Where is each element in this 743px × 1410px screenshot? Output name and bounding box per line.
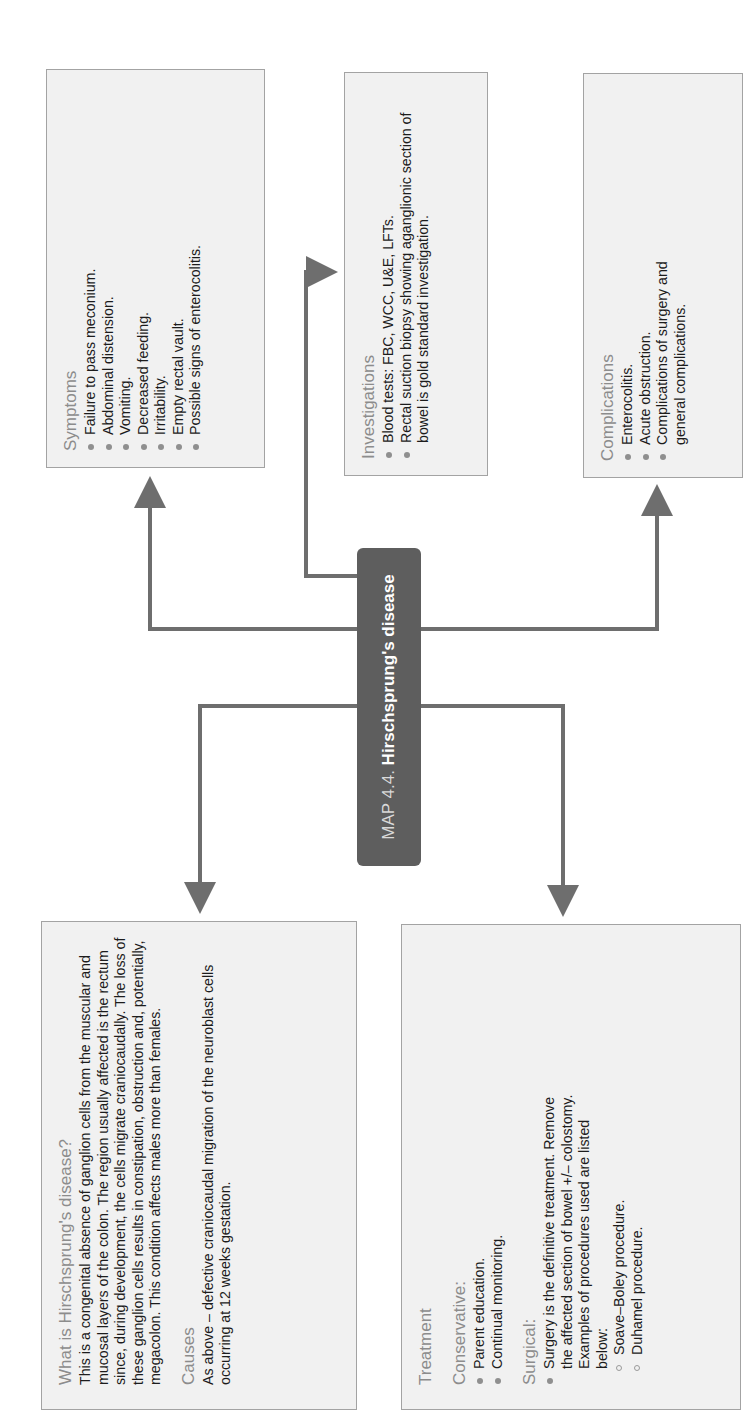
surgical-list: Surgery is the definitive treatment. Rem… (541, 1085, 646, 1385)
list-item: Soave–Boley procedure. (611, 1085, 629, 1385)
list-item: Empty rectal vault. (170, 84, 188, 451)
list-item: Duhamel procedure. (629, 1085, 647, 1385)
conservative-heading: Conservative: (450, 939, 470, 1385)
causes-body: As above – defective craniocaudal migrat… (200, 936, 235, 1385)
list-item: Enterocolitis. (619, 261, 637, 461)
connector-treatment (421, 706, 563, 909)
complications-box: Complications Enterocolitis. Acute obstr… (583, 73, 743, 478)
what-is-body: This is a congenital absence of ganglion… (77, 936, 165, 1385)
central-node: MAP 4.4. Hirschsprung's disease (357, 548, 421, 866)
connector-symptoms (150, 484, 357, 629)
map-number: MAP 4.4. (379, 770, 398, 840)
complications-list: Enterocolitis. Acute obstruction. Compli… (619, 261, 689, 461)
investigations-box: Investigations Blood tests: FBC, WCC, U&… (344, 72, 488, 476)
conservative-list: Parent education. Continual monitoring. (471, 939, 506, 1385)
list-item: Decreased feeding. (135, 84, 153, 451)
list-item: Acute obstruction. (637, 261, 655, 461)
surgical-heading: Surgical: (520, 939, 540, 1385)
connector-complications (421, 492, 657, 629)
investigations-list: Blood tests: FBC, WCC, U&E, LFTs. Rectal… (380, 87, 433, 459)
list-item: Abdominal distension. (100, 84, 118, 451)
list-item: Possible signs of enterocolitis. (187, 84, 205, 451)
list-item: Irritability. (152, 84, 170, 451)
list-item: Failure to pass meconium. (82, 84, 100, 451)
investigations-heading: Investigations (359, 87, 379, 459)
treatment-box: Treatment Conservative: Parent education… (401, 924, 741, 1410)
list-item: Rectal suction biopsy showing aganglioni… (398, 87, 433, 459)
list-item: Blood tests: FBC, WCC, U&E, LFTs. (380, 87, 398, 459)
list-item: Parent education. (471, 939, 489, 1385)
list-item: Continual monitoring. (489, 939, 507, 1385)
what-is-heading: What is Hirschsprung's disease? (56, 936, 76, 1385)
what-is-box: What is Hirschsprung's disease? This is … (41, 921, 357, 1410)
symptoms-heading: Symptoms (61, 84, 81, 451)
map-title: Hirschsprung's disease (379, 574, 398, 765)
connector-what-is (200, 706, 357, 906)
treatment-heading: Treatment (416, 939, 436, 1385)
complications-heading: Complications (598, 88, 618, 461)
list-item: Complications of surgery and general com… (654, 261, 689, 461)
symptoms-box: Symptoms Failure to pass meconium. Abdom… (46, 69, 265, 468)
list-item: Surgery is the definitive treatment. Rem… (541, 1085, 611, 1385)
causes-heading: Causes (179, 936, 199, 1385)
symptoms-list: Failure to pass meconium. Abdominal dist… (82, 84, 205, 451)
list-item: Vomiting. (117, 84, 135, 451)
